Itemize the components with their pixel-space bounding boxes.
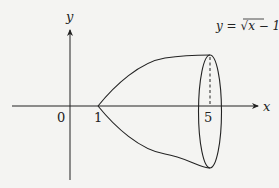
tick-label-0: 0 — [57, 110, 65, 125]
solid-of-revolution-figure: y x 0 1 5 y = √x − 1 — [0, 0, 279, 188]
tick-label-1: 1 — [94, 110, 102, 125]
x-axis-label: x — [263, 99, 271, 114]
lower-curve — [98, 106, 210, 168]
tick-label-5: 5 — [204, 110, 212, 125]
y-axis-label: y — [65, 9, 74, 24]
equation-eq: = — [223, 19, 241, 33]
upper-curve — [98, 55, 210, 106]
diagram-canvas: y x 0 1 5 y = √x − 1 — [0, 0, 279, 188]
radicand: x − 1 — [248, 19, 279, 33]
equation-label: y = √x − 1 — [215, 19, 279, 33]
